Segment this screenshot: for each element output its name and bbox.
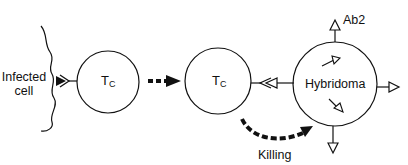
activation-arrowhead-icon xyxy=(166,75,181,87)
ab2-label: Ab2 xyxy=(343,13,365,27)
killing-arrow xyxy=(242,119,303,139)
ab2-top-arrow-icon xyxy=(330,20,340,30)
killing-label: Killing xyxy=(258,148,291,162)
hybridoma-label: Hybridoma xyxy=(305,77,365,91)
infected-cell-label-line2: cell xyxy=(0,84,50,98)
double-open-arrow-icon xyxy=(260,78,277,88)
infected-cell-label-line1: Infected xyxy=(0,70,50,84)
internal-arrow-2-icon xyxy=(334,103,343,112)
tc-1-label: TC xyxy=(101,74,115,91)
ab2-bottom-arrow-icon xyxy=(328,143,338,153)
infected-cell-label: Infected cell xyxy=(0,70,50,98)
internal-arrow-1-icon xyxy=(332,56,340,64)
ab2-right-arrow-icon xyxy=(389,82,399,92)
tc-2-label: TC xyxy=(212,74,226,91)
